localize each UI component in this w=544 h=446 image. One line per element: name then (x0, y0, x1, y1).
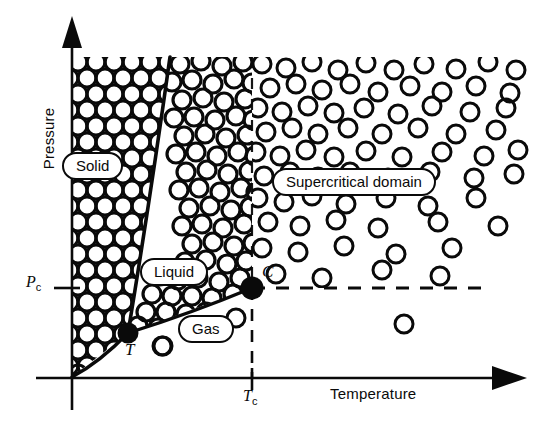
phase-diagram-canvas (0, 0, 544, 446)
critical-point-marker (241, 277, 264, 300)
triple-point-label: T (125, 340, 134, 360)
phase-diagram-figure: Pressure Temperature Pc Tc T C Solid Liq… (0, 0, 544, 446)
y-axis-arrowhead (62, 16, 82, 48)
pc-subscript: c (36, 281, 42, 293)
critical-point-label: C (262, 262, 273, 282)
pc-tick-label: Pc (26, 273, 41, 293)
tc-symbol: T (243, 387, 252, 404)
y-axis-title: Pressure (40, 89, 57, 189)
x-axis-title: Temperature (330, 385, 416, 402)
region-label-liquid: Liquid (140, 258, 208, 286)
tc-subscript: c (252, 395, 258, 407)
region-label-supercritical: Supercritical domain (272, 168, 436, 196)
region-label-solid: Solid (62, 152, 123, 180)
tc-tick-label: Tc (243, 387, 257, 407)
x-axis-arrowhead (492, 366, 527, 390)
pc-symbol: P (26, 273, 36, 290)
region-label-gas: Gas (178, 315, 234, 343)
